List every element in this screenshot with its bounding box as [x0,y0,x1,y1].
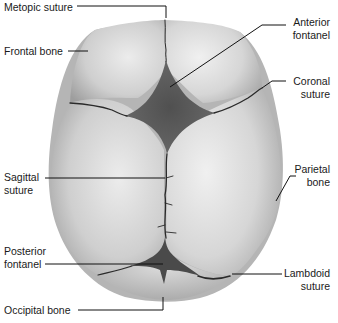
label-parietal-bone-line2: bone [307,176,330,188]
label-anterior-fontanel-line2: fontanel [293,29,330,41]
skull-diagram: Metopic suture Frontal bone Anterior fon… [0,0,338,323]
label-coronal-suture-line1: Coronal [293,75,330,87]
label-parietal-bone-line1: Parietal [294,163,330,175]
label-sagittal-suture-line2: suture [4,184,33,196]
label-posterior-fontanel-line2: fontanel [4,258,41,270]
label-coronal-suture-line2: suture [301,88,330,100]
label-sagittal-suture-line1: Sagittal [4,171,39,183]
label-occipital-bone: Occipital bone [4,304,71,316]
label-frontal-bone: Frontal bone [4,45,63,57]
label-metopic-suture: Metopic suture [4,1,73,13]
label-lambdoid-suture-line1: Lambdoid [284,267,330,279]
label-posterior-fontanel-line1: Posterior [4,245,46,257]
label-lambdoid-suture-line2: suture [301,280,330,292]
label-anterior-fontanel-line1: Anterior [293,16,330,28]
leader-metopic-suture [77,6,166,18]
